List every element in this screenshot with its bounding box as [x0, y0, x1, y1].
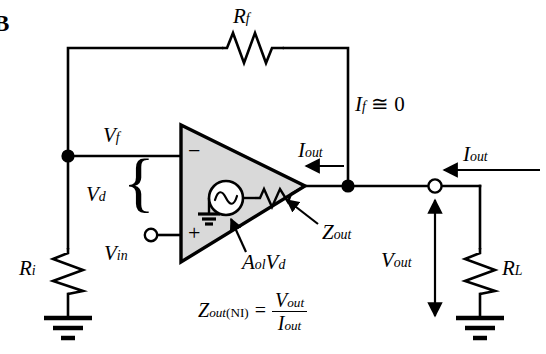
rl-base: R: [502, 256, 515, 280]
zout-sub: out: [334, 227, 352, 242]
feedback-resistor-symbol: [222, 33, 284, 63]
vin-terminal-circle: [145, 229, 157, 241]
formula-fraction: VoutIout: [272, 290, 307, 333]
feedback-resistor-label: Rf: [233, 6, 250, 27]
formula-num-base: V: [275, 289, 287, 311]
formula-num-sub: out: [287, 295, 304, 310]
output-impedance-formula: Zout(NI)=VoutIout: [198, 291, 307, 334]
formula-equals: =: [249, 299, 272, 321]
vin-sub: in: [117, 248, 128, 263]
formula-denominator: Iout: [272, 311, 307, 333]
iout-right-base: I: [463, 142, 470, 166]
formula-numerator: Vout: [272, 290, 307, 311]
vd-brace-icon: {: [123, 152, 155, 213]
vf-base: V: [103, 123, 116, 147]
ri-ground-icon: [44, 318, 92, 338]
feedback-current-label: If ≅ 0: [355, 94, 405, 115]
formula-den-sub: out: [284, 318, 301, 333]
aol-base: A: [242, 250, 255, 274]
vd-base: V: [86, 182, 99, 206]
opamp-noninverting-sign: +: [188, 222, 200, 244]
differential-voltage-label: Vd: [86, 184, 106, 205]
iout-right-sub: out: [470, 149, 488, 164]
input-resistor-label: Ri: [19, 258, 36, 279]
aol-sub: ol: [255, 257, 266, 272]
formula-lhs-paren: (NI): [226, 305, 249, 320]
panel-letter: B: [0, 12, 9, 35]
vout-terminal-circle: [428, 179, 441, 192]
aolvd-v-sub: d: [278, 257, 285, 272]
rl-sub: L: [515, 263, 523, 278]
opamp-inverting-sign: −: [188, 140, 200, 162]
output-junction-dot: [341, 179, 354, 192]
zout-label: Zout: [322, 222, 351, 243]
zout-base: Z: [322, 220, 334, 244]
formula-lhs-base: Z: [198, 299, 209, 321]
iout-mid-base: I: [298, 138, 305, 162]
vf-sub: f: [116, 130, 120, 145]
dependent-source-label: AolVd: [242, 252, 285, 273]
input-voltage-label: Vin: [104, 243, 128, 264]
output-voltage-label: Vout: [381, 250, 412, 271]
iout-mid-label: Iout: [298, 140, 323, 161]
ri-base: R: [19, 256, 32, 280]
inverting-input-junction-dot: [61, 149, 74, 162]
load-resistor-label: RL: [502, 258, 523, 279]
vout-sub: out: [394, 255, 412, 270]
rf-sub: f: [246, 11, 250, 26]
formula-lhs-sub: out: [209, 305, 226, 320]
iout-mid-sub: out: [305, 145, 323, 160]
input-resistor-symbol: [53, 248, 83, 294]
if-base: I: [355, 92, 362, 116]
feedback-voltage-label: Vf: [103, 125, 120, 146]
vout-base: V: [381, 248, 394, 272]
ri-sub: i: [32, 263, 36, 278]
iout-right-label: Iout: [463, 144, 488, 165]
rl-ground-icon: [456, 318, 504, 338]
if-relation: ≅ 0: [366, 92, 405, 116]
aolvd-v-base: V: [266, 250, 279, 274]
zout-leader-line: [287, 200, 318, 224]
circuit-diagram-figure: B Rf If ≅ 0 Vf Vd { Vin Ri − + Iout Iout…: [0, 0, 546, 354]
vd-sub: d: [99, 189, 106, 204]
load-resistor-symbol: [465, 248, 495, 294]
rf-base: R: [233, 4, 246, 28]
vin-base: V: [104, 241, 117, 265]
